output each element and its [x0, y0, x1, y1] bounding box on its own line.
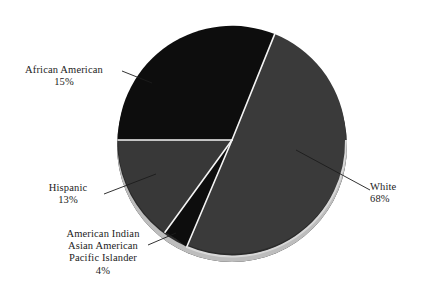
slice-label-african-american-percent: 15% [6, 76, 122, 88]
slice-label-american-indian-asian-pacific: American Indian Asian American Pacific I… [38, 228, 168, 277]
slice-label-african-american: African American 15% [6, 64, 122, 88]
slice-label-white-name: White [370, 181, 422, 193]
slice-label-white-percent: 68% [370, 193, 422, 205]
slice-label-aian-line1: American Indian [38, 228, 168, 240]
slice-label-hispanic-name: Hispanic [22, 182, 114, 194]
slice-label-aian-percent: 4% [38, 265, 168, 277]
pie-chart: African American 15% White 68% Hispanic … [0, 0, 424, 293]
slice-label-african-american-name: African American [6, 64, 122, 76]
slice-label-hispanic-percent: 13% [22, 194, 114, 206]
slice-label-aian-line3: Pacific Islander [38, 252, 168, 264]
slice-label-white: White 68% [370, 181, 422, 205]
slice-label-aian-line2: Asian American [38, 240, 168, 252]
slice-label-hispanic: Hispanic 13% [22, 182, 114, 206]
